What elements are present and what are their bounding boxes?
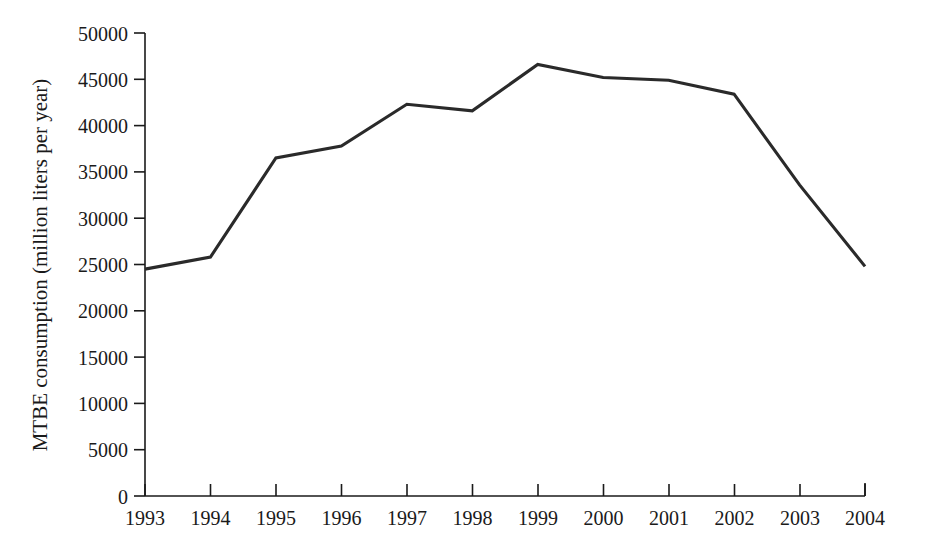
x-tick-label: 2000 (584, 507, 624, 529)
x-tick-label: 1998 (453, 507, 493, 529)
x-tick-label: 1997 (387, 507, 427, 529)
line-chart: MTBE consumption (million liters per yea… (0, 0, 925, 559)
chart-figure: MTBE consumption (million liters per yea… (0, 0, 925, 559)
x-tick-label: 2001 (649, 507, 689, 529)
x-tick-label: 1995 (256, 507, 296, 529)
x-tick-label: 1999 (518, 507, 558, 529)
x-tick-label: 1996 (322, 507, 362, 529)
y-tick-label: 0 (118, 486, 128, 508)
y-tick-label: 5000 (88, 439, 128, 461)
x-tick-label: 2002 (715, 507, 755, 529)
y-tick-label: 15000 (78, 347, 128, 369)
y-tick-label: 45000 (78, 69, 128, 91)
y-tick-label: 40000 (78, 115, 128, 137)
x-tick-label: 2003 (780, 507, 820, 529)
y-axis-title: MTBE consumption (million liters per yea… (28, 79, 52, 452)
x-tick-label: 2004 (845, 507, 885, 529)
y-tick-label: 30000 (78, 208, 128, 230)
y-tick-label: 25000 (78, 254, 128, 276)
y-tick-label: 50000 (78, 23, 128, 45)
x-tick-label: 1993 (125, 507, 165, 529)
chart-background (0, 0, 925, 559)
y-tick-label: 10000 (78, 393, 128, 415)
x-tick-label: 1994 (191, 507, 231, 529)
y-tick-label: 20000 (78, 300, 128, 322)
y-tick-label: 35000 (78, 161, 128, 183)
